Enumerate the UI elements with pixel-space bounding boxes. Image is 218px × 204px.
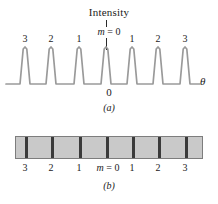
fringe-bar-minus-2 — [51, 137, 54, 158]
fringe-bar-plus-2 — [158, 137, 161, 158]
m-value-a: = 0 — [105, 26, 121, 37]
intensity-curve — [0, 44, 218, 86]
diffraction-grating-figure: Intensity m = 0 3 2 1 1 2 3 θ 0 (a) — [0, 0, 218, 204]
caption-b: (b) — [0, 180, 218, 191]
m-variable-b: m — [97, 162, 104, 173]
fringe-label-minus-1: 1 — [64, 162, 94, 173]
peak-label-minus-2: 2 — [43, 33, 59, 44]
peak-label-minus-3: 3 — [17, 33, 33, 44]
fringe-bar-plus-1 — [132, 137, 135, 158]
fringe-bar-zero — [106, 137, 109, 158]
panel-a-intensity-plot: Intensity m = 0 3 2 1 1 2 3 θ 0 (a) — [0, 0, 218, 118]
caption-a: (a) — [0, 102, 218, 113]
screen-strip — [15, 136, 203, 159]
fringe-bar-plus-3 — [185, 137, 188, 158]
m-variable-a: m — [98, 26, 105, 37]
fringe-label-plus-2: 2 — [143, 162, 173, 173]
peak-label-plus-1: 1 — [124, 33, 140, 44]
panel-b-fringe-pattern: 3 2 1 m = 0 1 2 3 (b) — [0, 118, 218, 204]
fringe-label-plus-3: 3 — [170, 162, 200, 173]
intensity-axis-label: Intensity — [0, 6, 218, 18]
fringe-bar-minus-1 — [79, 137, 82, 158]
fringe-label-minus-2: 2 — [36, 162, 66, 173]
origin-label: 0 — [0, 86, 218, 98]
peak-label-plus-2: 2 — [150, 33, 166, 44]
peak-label-minus-1: 1 — [71, 33, 87, 44]
fringe-bar-minus-3 — [25, 137, 28, 158]
peak-label-plus-3: 3 — [177, 33, 193, 44]
